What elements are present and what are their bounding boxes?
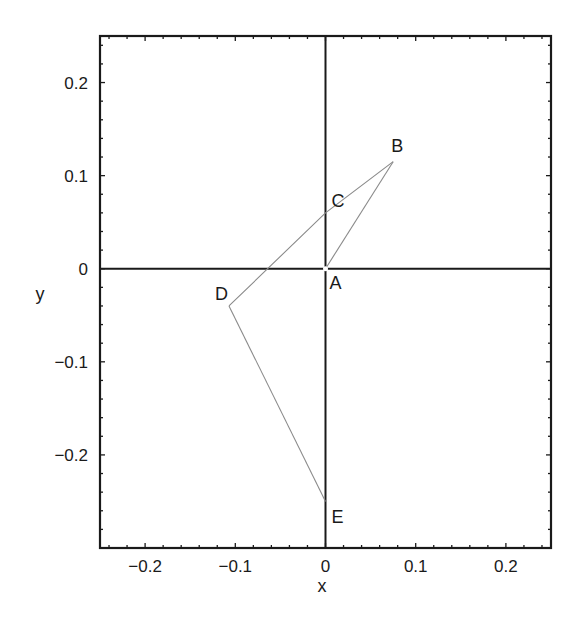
x-axis-label: x — [318, 576, 327, 596]
y-tick-label: −0.2 — [54, 446, 88, 465]
y-tick-label: −0.1 — [54, 353, 88, 372]
tick-labels: −0.2−0.100.10.2−0.2−0.100.10.2 — [54, 74, 517, 576]
y-tick-label: 0 — [79, 260, 88, 279]
point-label-b: B — [391, 136, 403, 156]
y-tick-label: 0.1 — [64, 167, 88, 186]
x-tick-label: 0 — [321, 557, 330, 576]
x-tick-label: 0.2 — [494, 557, 518, 576]
point-a-marker — [323, 266, 328, 271]
point-label-a: A — [330, 273, 342, 293]
x-tick-label: 0.1 — [404, 557, 428, 576]
reference-axes — [100, 36, 551, 548]
y-tick-label: 0.2 — [64, 74, 88, 93]
segment-d-e — [229, 306, 326, 501]
point-label-e: E — [332, 507, 344, 527]
segment-a-b — [326, 162, 394, 269]
geometry-plot: ABCDE −0.2−0.100.10.2−0.2−0.100.10.2 x y — [0, 0, 578, 625]
y-axis-label: y — [36, 284, 45, 304]
x-tick-label: −0.2 — [128, 557, 162, 576]
segments — [229, 162, 393, 502]
segment-b-c-d — [229, 162, 393, 306]
x-tick-label: −0.1 — [219, 557, 253, 576]
point-label-c: C — [332, 191, 345, 211]
point-label-d: D — [215, 284, 228, 304]
